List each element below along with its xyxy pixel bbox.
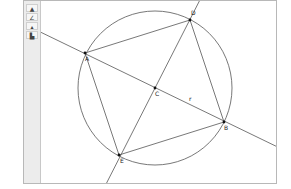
point-C[interactable] [154,87,157,90]
segment-AD[interactable] [85,20,190,53]
point-B[interactable] [223,121,226,124]
point-D[interactable] [189,19,192,22]
label-E: E [120,157,124,164]
segment-EA[interactable] [85,53,119,155]
label-C: C [155,90,159,97]
point-E[interactable] [118,154,121,157]
label-line-r: r [189,95,192,102]
line-AB[interactable] [30,27,290,153]
point-A[interactable] [84,52,87,55]
geometry-canvas[interactable]: A D C B E r [0,0,291,189]
label-D: D [191,9,196,16]
label-B: B [224,124,228,131]
